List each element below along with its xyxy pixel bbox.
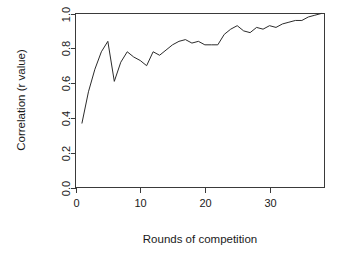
y-tick-label-0.2: 0.2 [60,146,72,161]
chart-plot-area: 0102030 0.00.20.40.60.81.0 Rounds of com… [0,0,340,260]
y-tick-label-0.6: 0.6 [60,76,72,91]
data-line-correlation [82,14,321,124]
data-series-group [82,14,321,124]
y-tick-label-0.0: 0.0 [60,181,72,196]
x-tick-label-10: 10 [134,197,146,209]
x-tick-label-0: 0 [73,197,79,209]
y-axis-ticks [71,15,76,189]
plot-frame [76,14,325,188]
chart-figure: 0102030 0.00.20.40.60.81.0 Rounds of com… [0,0,340,260]
x-tick-label-group: 0102030 [73,197,276,209]
x-tick-label-30: 30 [264,197,276,209]
y-tick-label-0.8: 0.8 [60,41,72,56]
y-tick-label-1.0: 1.0 [60,7,72,22]
y-tick-label-group: 0.00.20.40.60.81.0 [60,7,72,196]
x-tick-label-20: 20 [199,197,211,209]
x-axis-title: Rounds of competition [143,233,257,245]
y-tick-label-0.4: 0.4 [60,111,72,126]
axis-group [71,14,325,193]
y-axis-title: Correlation (r value) [15,49,27,151]
x-axis-ticks [77,188,271,193]
